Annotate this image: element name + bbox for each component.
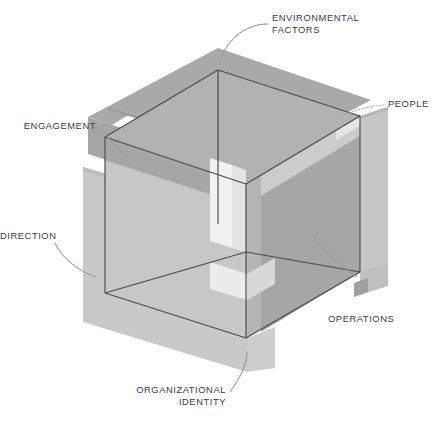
label-organizational-identity: ORGANIZATIONAL IDENTITY bbox=[80, 384, 226, 409]
label-operations: OPERATIONS bbox=[328, 313, 432, 325]
plane-people bbox=[360, 107, 388, 287]
plane-people-surface bbox=[360, 107, 388, 287]
label-environmental-factors: ENVIRONMENTAL FACTORS bbox=[272, 12, 432, 37]
operations-slab-edge bbox=[354, 278, 368, 297]
label-direction: DIRECTION bbox=[0, 230, 56, 242]
label-people: PEOPLE bbox=[388, 98, 444, 110]
isometric-cube-diagram bbox=[0, 0, 444, 433]
identity-stripe-upper bbox=[210, 158, 232, 248]
identity-stripe-mid bbox=[232, 165, 246, 252]
label-engagement: ENGAGEMENT bbox=[0, 120, 96, 132]
diagram-canvas: ENVIRONMENTAL FACTORS PEOPLE ENGAGEMENT … bbox=[0, 0, 444, 433]
